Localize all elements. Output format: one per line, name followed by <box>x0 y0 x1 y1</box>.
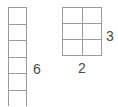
grid-cell <box>83 8 103 24</box>
unit-strip-1x6 <box>8 7 27 106</box>
grid-cell <box>63 8 83 24</box>
grid-cell <box>9 58 27 75</box>
grid-cell <box>63 40 83 56</box>
grid-rows-label: 3 <box>106 29 114 43</box>
grid-cell <box>9 41 27 58</box>
grid-columns-label: 2 <box>62 61 102 75</box>
grid-cell <box>9 8 27 25</box>
grid-cell <box>83 24 103 40</box>
strip-height-label: 6 <box>33 62 41 76</box>
grid-cell <box>83 40 103 56</box>
array-grid-2x3 <box>62 7 102 56</box>
grid-cell <box>9 91 27 107</box>
grid-cell <box>9 25 27 42</box>
worksheet-canvas: 6 3 2 <box>0 0 118 106</box>
grid-cell <box>63 24 83 40</box>
grid-cell <box>9 74 27 91</box>
